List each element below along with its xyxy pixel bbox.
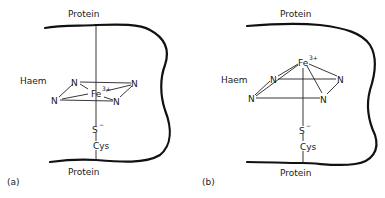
nitrogen-atom-a: N bbox=[113, 97, 120, 107]
fe-n-bond-b bbox=[256, 65, 298, 96]
cysteine-label-a: Cys bbox=[93, 141, 110, 151]
haem-label-a: Haem bbox=[20, 76, 47, 86]
haem-bond-a bbox=[60, 100, 113, 101]
nitrogen-atom-b: N bbox=[270, 75, 277, 85]
protein-top-label-b: Protein bbox=[280, 9, 312, 19]
iron-atom-a: Fe bbox=[91, 89, 102, 99]
haem-bond-a bbox=[62, 94, 88, 99]
iron-atom-b: Fe bbox=[298, 58, 309, 68]
nitrogen-atom-b: N bbox=[337, 75, 344, 85]
haem-bond-a bbox=[104, 97, 113, 100]
haem-label-b: Haem bbox=[221, 75, 248, 85]
sulfur-atom-b: S bbox=[299, 126, 305, 136]
protein-bottom-label-a: Protein bbox=[68, 167, 100, 177]
nitrogen-atom-b: N bbox=[320, 95, 327, 105]
panel-caption-b: (b) bbox=[202, 177, 215, 187]
iron-charge-a: 3+ bbox=[102, 85, 111, 92]
haem-bond-b bbox=[255, 81, 270, 95]
protein-bottom-label-b: Protein bbox=[280, 168, 312, 178]
fe-n-bond-b bbox=[309, 64, 337, 76]
fe-n-bond-b bbox=[278, 64, 298, 76]
haem-bond-a bbox=[80, 84, 88, 89]
panel-a: Protein Haem N N N N Fe 3+ S − Cys Prote… bbox=[7, 9, 170, 187]
iron-charge-b: 3+ bbox=[309, 54, 318, 61]
sulfur-charge-a: − bbox=[99, 121, 104, 128]
panel-b: Protein Haem Fe 3+ N N N N S − Cys Prote… bbox=[202, 9, 376, 187]
haem-bond-a bbox=[80, 82, 131, 83]
nitrogen-atom-a: N bbox=[51, 96, 58, 106]
nitrogen-atom-a: N bbox=[131, 79, 138, 89]
nitrogen-atom-b: N bbox=[248, 94, 255, 104]
protein-top-label-a: Protein bbox=[68, 9, 100, 19]
sulfur-atom-a: S bbox=[92, 125, 98, 135]
sulfur-charge-b: − bbox=[306, 122, 311, 129]
haem-iron-diagram: Protein Haem N N N N Fe 3+ S − Cys Prote… bbox=[0, 0, 385, 198]
fe-n-bond-b bbox=[307, 66, 322, 93]
nitrogen-atom-a: N bbox=[71, 78, 78, 88]
panel-caption-a: (a) bbox=[7, 177, 20, 187]
cysteine-label-b: Cys bbox=[300, 142, 317, 152]
